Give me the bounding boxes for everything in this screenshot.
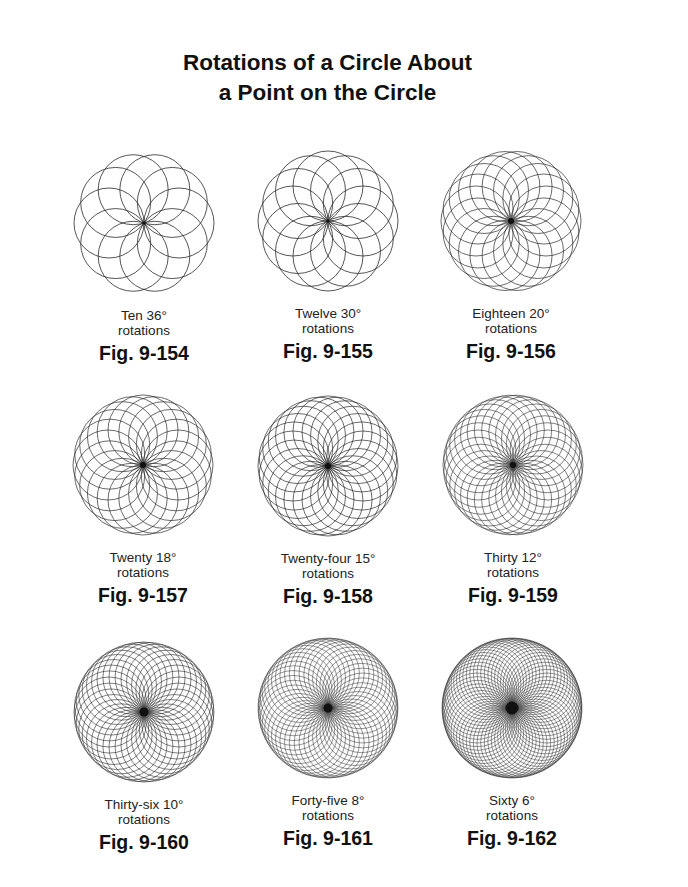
figure-9-162: Sixty 6° rotations Fig. 9-162 xyxy=(422,618,602,798)
figure-caption-line-1: Forty-five 8° xyxy=(238,793,418,808)
figure-caption-line-1: Twelve 30° xyxy=(238,306,418,321)
figure-9-158: Twenty-four 15° rotations Fig. 9-158 xyxy=(238,376,418,556)
rosette-diagram xyxy=(421,131,601,311)
figure-caption-line-2: rotations xyxy=(422,808,602,823)
figure-9-159: Thirty 12° rotations Fig. 9-159 xyxy=(423,375,603,555)
figure-caption-line-1: Eighteen 20° xyxy=(421,306,601,321)
figure-label: Fig. 9-154 xyxy=(54,342,234,364)
figure-label: Fig. 9-161 xyxy=(238,827,418,849)
rosette-diagram xyxy=(423,375,603,555)
figure-9-160: Thirty-six 10° rotations Fig. 9-160 xyxy=(54,622,234,802)
figure-caption-line-2: rotations xyxy=(54,323,234,338)
figure-9-157: Twenty 18° rotations Fig. 9-157 xyxy=(53,375,233,555)
title-line-1: Rotations of a Circle About xyxy=(0,48,655,78)
figure-9-155: Twelve 30° rotations Fig. 9-155 xyxy=(238,131,418,311)
page-title: Rotations of a Circle About a Point on t… xyxy=(0,48,655,108)
figure-caption-line-1: Thirty-six 10° xyxy=(54,797,234,812)
rosette-diagram xyxy=(422,618,602,798)
figure-label: Fig. 9-158 xyxy=(238,585,418,607)
figure-caption-line-2: rotations xyxy=(421,321,601,336)
figure-9-161: Forty-five 8° rotations Fig. 9-161 xyxy=(238,618,418,798)
figure-caption-line-2: rotations xyxy=(423,565,603,580)
figure-caption-line-2: rotations xyxy=(54,812,234,827)
rosette-diagram xyxy=(238,618,418,798)
figure-9-154: Ten 36° rotations Fig. 9-154 xyxy=(54,133,234,313)
figure-label: Fig. 9-162 xyxy=(422,827,602,849)
figure-caption-line-2: rotations xyxy=(238,321,418,336)
rosette-diagram xyxy=(238,131,418,311)
figure-caption-line-1: Sixty 6° xyxy=(422,793,602,808)
figure-caption-line-1: Thirty 12° xyxy=(423,550,603,565)
figure-caption-line-2: rotations xyxy=(53,565,233,580)
figure-caption-line-2: rotations xyxy=(238,566,418,581)
figure-caption-line-2: rotations xyxy=(238,808,418,823)
figure-label: Fig. 9-156 xyxy=(421,340,601,362)
rosette-diagram xyxy=(53,375,233,555)
figure-label: Fig. 9-155 xyxy=(238,340,418,362)
figure-label: Fig. 9-160 xyxy=(54,831,234,853)
figure-caption-line-1: Twenty-four 15° xyxy=(238,551,418,566)
rosette-diagram xyxy=(54,133,234,313)
figure-label: Fig. 9-159 xyxy=(423,584,603,606)
figure-caption-line-1: Ten 36° xyxy=(54,308,234,323)
figure-9-156: Eighteen 20° rotations Fig. 9-156 xyxy=(421,131,601,311)
rosette-diagram xyxy=(238,376,418,556)
title-line-2: a Point on the Circle xyxy=(0,78,655,108)
figure-label: Fig. 9-157 xyxy=(53,584,233,606)
rosette-diagram xyxy=(54,622,234,802)
figure-caption-line-1: Twenty 18° xyxy=(53,550,233,565)
